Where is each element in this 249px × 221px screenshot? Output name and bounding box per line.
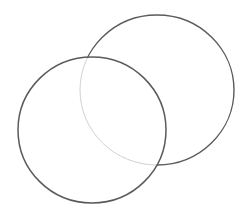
back-circle bbox=[80, 15, 234, 165]
sketch-canvas bbox=[0, 0, 249, 221]
back-circle-hidden-arc bbox=[80, 15, 234, 165]
